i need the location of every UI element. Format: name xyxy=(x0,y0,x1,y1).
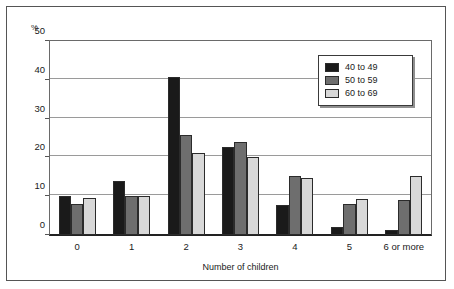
x-axis-tick-label: 1 xyxy=(129,241,134,253)
bar-group xyxy=(104,41,158,235)
legend-item[interactable]: 60 to 69 xyxy=(325,87,406,100)
bar[interactable] xyxy=(289,176,301,235)
bar[interactable] xyxy=(247,157,259,235)
bar[interactable] xyxy=(125,196,137,235)
legend-item[interactable]: 50 to 59 xyxy=(325,74,406,87)
bar[interactable] xyxy=(71,204,83,235)
y-axis-tick-label: 0 xyxy=(15,220,45,230)
legend-item-label: 50 to 59 xyxy=(345,75,378,86)
bar[interactable] xyxy=(234,142,246,236)
bar[interactable] xyxy=(168,77,180,235)
x-axis-tick-label: 2 xyxy=(183,241,188,253)
x-axis-tick-label: 3 xyxy=(238,241,243,253)
bar[interactable] xyxy=(113,181,125,235)
bar[interactable] xyxy=(398,200,410,235)
bar[interactable] xyxy=(222,147,234,235)
bar[interactable] xyxy=(276,205,288,235)
legend: 40 to 4950 to 5960 to 69 xyxy=(318,55,413,106)
x-axis-tick-label: 6 or more xyxy=(383,241,424,253)
bar[interactable] xyxy=(331,227,343,235)
y-axis-tick-labels: 01020304050 xyxy=(11,40,45,236)
y-axis-tick-label: 50 xyxy=(15,26,45,36)
x-axis-tick-label: 4 xyxy=(292,241,297,253)
bar[interactable] xyxy=(301,178,313,235)
bar[interactable] xyxy=(385,230,397,235)
x-axis-tick-labels: 0123456 or more xyxy=(50,241,431,255)
y-axis-tick-label: 20 xyxy=(15,142,45,152)
bar[interactable] xyxy=(410,176,422,235)
x-axis-title: Number of children xyxy=(49,262,432,272)
bar[interactable] xyxy=(180,135,192,235)
legend-item[interactable]: 40 to 49 xyxy=(325,61,406,74)
bar-group xyxy=(213,41,267,235)
legend-swatch-icon xyxy=(325,76,339,85)
y-axis-tick-label: 40 xyxy=(15,65,45,75)
bar[interactable] xyxy=(192,153,204,235)
bar[interactable] xyxy=(356,199,368,235)
x-axis-tick-label: 0 xyxy=(75,241,80,253)
x-axis-tick-label: 5 xyxy=(347,241,352,253)
legend-swatch-icon xyxy=(325,63,339,72)
figure-frame: % 01020304050 0123456 or more Number of … xyxy=(6,6,446,281)
y-axis-tick-label: 30 xyxy=(15,104,45,114)
legend-swatch-icon xyxy=(325,89,339,98)
y-axis-tick-label: 10 xyxy=(15,181,45,191)
bar[interactable] xyxy=(83,198,95,235)
bar[interactable] xyxy=(343,204,355,235)
legend-item-label: 40 to 49 xyxy=(345,62,378,73)
bar-group xyxy=(159,41,213,235)
bar-group xyxy=(50,41,104,235)
bar-group xyxy=(268,41,322,235)
legend-item-label: 60 to 69 xyxy=(345,88,378,99)
bar[interactable] xyxy=(138,196,150,235)
bar[interactable] xyxy=(59,196,71,235)
